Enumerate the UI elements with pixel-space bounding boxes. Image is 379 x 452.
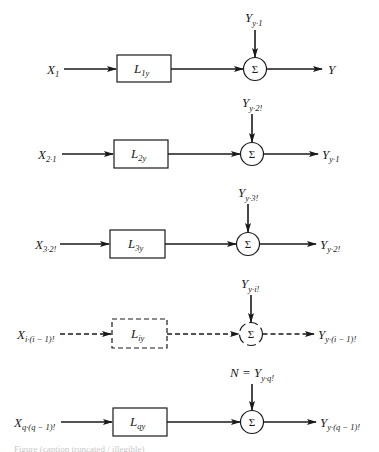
figure-caption: Figure (caption truncated / illegible) bbox=[14, 444, 364, 452]
output-label: Yy·(i − 1)! bbox=[318, 327, 356, 344]
output-label: Yy·2! bbox=[320, 237, 340, 254]
row-q: Xq·(q − 1)! Lqy Σ N = Yy·q! Yy·(q − 1)! bbox=[13, 365, 360, 436]
output-label: Yy·(q − 1)! bbox=[320, 415, 360, 432]
row-i: Xi·(i − 1)! Liy Σ Yy·i! Yy·(i − 1)! bbox=[16, 276, 356, 348]
row-2: X2·1 L2y Σ Yy·2! Yy·1 bbox=[37, 95, 339, 168]
output-label: Yy·1 bbox=[322, 147, 339, 164]
output-label: Y bbox=[328, 62, 337, 77]
input-label: Xq·(q − 1)! bbox=[13, 415, 55, 432]
sigma-icon: Σ bbox=[248, 328, 254, 340]
row-1: X1 L1y Σ Yy·1 Y bbox=[46, 10, 337, 82]
sigma-icon: Σ bbox=[252, 63, 258, 75]
sigma-icon: Σ bbox=[249, 416, 255, 428]
input-label: X1 bbox=[46, 62, 59, 79]
input-label: X3·2! bbox=[34, 237, 57, 254]
top-input-label: Yy·1 bbox=[245, 10, 262, 28]
block-diagram: X1 L1y Σ Yy·1 Y X2·1 L2y Σ Yy·2! Yy·1 X3… bbox=[0, 0, 379, 452]
top-input-label: Yy·2! bbox=[242, 95, 262, 113]
input-label: X2·1 bbox=[37, 147, 57, 164]
top-input-label: Yy·3! bbox=[238, 185, 258, 203]
top-input-label: N = Yy·q! bbox=[229, 365, 274, 383]
input-label: Xi·(i − 1)! bbox=[16, 327, 55, 344]
top-input-label: Yy·i! bbox=[241, 276, 259, 294]
sigma-icon: Σ bbox=[245, 238, 251, 250]
row-3: X3·2! L3y Σ Yy·3! Yy·2! bbox=[34, 185, 340, 258]
sigma-icon: Σ bbox=[249, 148, 255, 160]
